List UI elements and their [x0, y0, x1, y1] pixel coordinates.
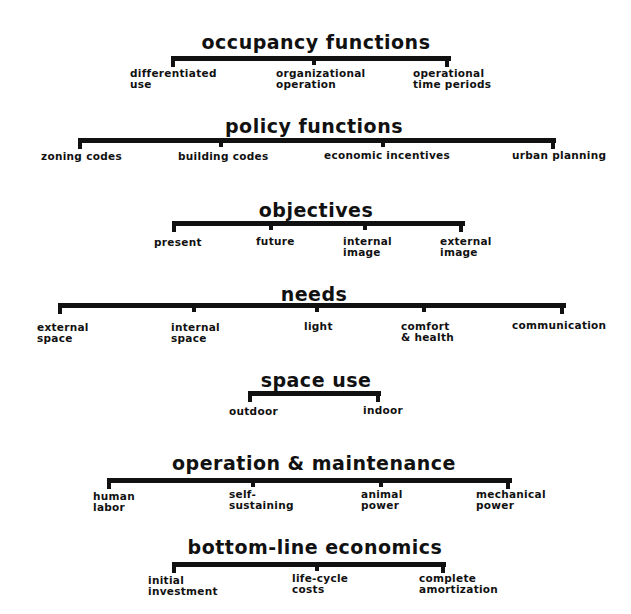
bracket-bar [60, 303, 566, 308]
subcategory-label: operational time periods [413, 68, 491, 90]
subcategory-label: complete amortization [419, 573, 498, 595]
subcategory-label: internal image [343, 236, 392, 258]
bracket-tick [172, 221, 176, 232]
subcategory-label: human labor [93, 491, 135, 513]
subcategory-label: differentiated use [130, 68, 217, 90]
bracket-tick [376, 391, 380, 402]
subcategory-label: present [154, 237, 202, 248]
subcategory-label: external image [440, 236, 492, 258]
bracket-tick [312, 56, 316, 65]
subcategory-label: animal power [361, 489, 403, 511]
category-title: bottom-line economics [188, 538, 443, 557]
category-title: objectives [259, 201, 374, 220]
subcategory-label: economic incentives [324, 150, 450, 161]
bracket-tick [315, 303, 319, 312]
bracket-tick [107, 478, 111, 489]
subcategory-label: urban planning [512, 150, 606, 161]
subcategory-label: future [256, 236, 295, 247]
subcategory-label: indoor [363, 405, 403, 416]
bracket-bar [174, 221, 465, 226]
category-title: needs [281, 285, 348, 304]
bracket-tick [58, 303, 62, 314]
bracket-tick [459, 221, 463, 232]
bracket-tick [171, 56, 175, 67]
subcategory-label: initial investment [148, 575, 218, 597]
bracket-bar [80, 138, 556, 143]
bracket-tick [551, 138, 555, 149]
subcategory-label: light [304, 321, 333, 332]
bracket-tick [248, 391, 252, 402]
subcategory-label: outdoor [229, 406, 278, 417]
subcategory-label: internal space [171, 322, 220, 344]
bracket-tick [192, 303, 196, 312]
bracket-bar [109, 478, 512, 483]
subcategory-label: comfort & health [401, 321, 454, 343]
category-title: policy functions [225, 117, 403, 136]
bracket-tick [315, 562, 319, 571]
bracket-tick [219, 138, 223, 147]
bracket-tick [381, 138, 385, 147]
bracket-tick [251, 478, 255, 487]
bracket-tick [422, 303, 426, 312]
subcategory-label: zoning codes [41, 151, 122, 162]
bracket-tick [379, 478, 383, 487]
subcategory-label: organizational operation [276, 68, 365, 90]
category-title: space use [261, 371, 372, 390]
bracket-bar [174, 562, 446, 567]
bracket-bar [250, 391, 381, 396]
bracket-tick [78, 138, 82, 149]
subcategory-label: building codes [178, 151, 268, 162]
bracket-tick [560, 303, 564, 314]
category-title: occupancy functions [202, 33, 431, 52]
subcategory-label: life-cycle costs [292, 573, 348, 595]
subcategory-label: mechanical power [476, 489, 546, 511]
bracket-tick [172, 562, 176, 573]
subcategory-label: external space [37, 322, 89, 344]
bracket-tick [363, 221, 367, 230]
subcategory-label: self- sustaining [229, 489, 294, 511]
bracket-tick [269, 221, 273, 230]
subcategory-label: communication [512, 320, 606, 331]
bracket-tick [445, 56, 449, 67]
category-title: operation & maintenance [172, 454, 456, 473]
